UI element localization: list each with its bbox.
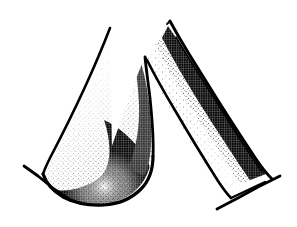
figure-container: Stippled ink line drawing of two tapered…: [0, 0, 297, 227]
stipple-drawing-svg: [0, 0, 297, 227]
